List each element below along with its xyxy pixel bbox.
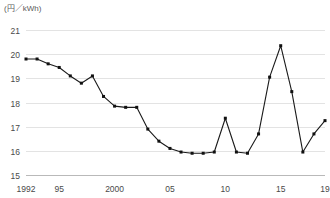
data-point-marker xyxy=(124,106,127,109)
y-axis-tick-label: 18 xyxy=(11,99,21,109)
data-point-marker xyxy=(324,119,327,122)
series-line xyxy=(26,46,325,154)
y-axis-tick-labels: 21201918171615 xyxy=(11,26,21,181)
chart-plot-area: 21201918171615 199295200005101519 xyxy=(0,0,330,198)
data-point-marker xyxy=(312,132,315,135)
x-axis-tick-label: 1992 xyxy=(17,184,36,194)
data-point-marker xyxy=(47,62,50,65)
data-point-marker xyxy=(191,152,194,155)
data-point-marker xyxy=(102,95,105,98)
data-point-marker xyxy=(301,151,304,154)
x-axis-tick-label: 19 xyxy=(320,184,330,194)
x-axis-tick-label: 2000 xyxy=(105,184,124,194)
data-point-marker xyxy=(157,140,160,143)
x-axis-tick-label: 05 xyxy=(165,184,175,194)
data-point-marker xyxy=(224,117,227,120)
data-point-marker xyxy=(235,151,238,154)
y-axis-tick-label: 20 xyxy=(11,50,21,60)
data-series xyxy=(25,44,327,155)
data-point-marker xyxy=(36,58,39,61)
data-point-marker xyxy=(58,66,61,69)
data-point-marker xyxy=(80,82,83,85)
data-point-marker xyxy=(113,105,116,108)
x-axis-tick-labels: 199295200005101519 xyxy=(17,184,330,194)
line-chart: (円／kWh) 21201918171615 19929520000510151… xyxy=(0,0,330,198)
data-point-marker xyxy=(268,76,271,79)
data-point-marker xyxy=(168,147,171,150)
data-point-marker xyxy=(91,74,94,77)
data-point-marker xyxy=(135,106,138,109)
data-point-marker xyxy=(202,152,205,155)
data-point-marker xyxy=(213,151,216,154)
x-axis-tick-label: 95 xyxy=(54,184,64,194)
data-point-marker xyxy=(180,151,183,154)
y-axis-tick-label: 17 xyxy=(11,123,21,133)
data-point-marker xyxy=(25,58,28,61)
data-point-marker xyxy=(290,90,293,93)
y-axis-tick-label: 21 xyxy=(11,26,21,36)
y-axis-tick-label: 15 xyxy=(11,171,21,181)
y-axis-tick-label: 19 xyxy=(11,74,21,84)
data-point-marker xyxy=(146,128,149,131)
data-point-marker xyxy=(69,74,72,77)
x-axis-tick-label: 15 xyxy=(276,184,286,194)
y-axis-tick-label: 16 xyxy=(11,147,21,157)
data-point-marker xyxy=(257,132,260,135)
data-point-marker xyxy=(279,44,282,47)
gridlines xyxy=(26,31,325,176)
x-axis-tick-label: 10 xyxy=(221,184,231,194)
data-point-marker xyxy=(246,152,249,155)
